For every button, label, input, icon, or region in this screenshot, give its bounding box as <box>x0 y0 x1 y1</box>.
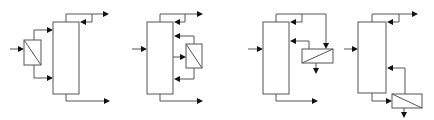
arrow-icon <box>80 19 86 25</box>
bottoms-draw-line <box>372 93 388 101</box>
arrow-icon <box>180 54 186 60</box>
arrow-icon <box>141 46 147 52</box>
return-line <box>294 41 309 49</box>
arrow-icon <box>103 11 109 17</box>
vapor-feed-line <box>34 30 49 40</box>
vapor-return-line <box>391 68 405 94</box>
column <box>358 22 386 93</box>
liquid-feed-line <box>34 65 49 78</box>
bottoms-line <box>66 94 104 101</box>
arrow-icon <box>387 65 393 71</box>
arrow-icon <box>387 19 393 25</box>
arrow-icon <box>323 43 329 49</box>
arrow-icon <box>386 98 392 104</box>
process-diagram <box>0 0 434 120</box>
arrow-icon <box>174 76 180 82</box>
bottoms-line <box>276 94 312 101</box>
arrow-icon <box>197 11 203 17</box>
arrow-icon <box>312 98 318 104</box>
arrow-icon <box>174 33 180 39</box>
return-line-upper <box>178 36 194 44</box>
arrow-icon <box>313 68 319 74</box>
arrow-icon <box>47 27 53 33</box>
return-line-lower <box>178 68 194 79</box>
bottoms-line <box>160 94 197 101</box>
arrow-icon <box>197 98 203 104</box>
column <box>263 22 289 94</box>
arrow-icon <box>290 38 296 44</box>
diagram-config-3 <box>248 14 333 104</box>
diagram-config-4 <box>344 11 422 118</box>
arrow-icon <box>18 46 24 52</box>
arrow-icon <box>104 98 110 104</box>
arrow-icon <box>352 46 358 52</box>
arrow-icon <box>290 19 296 25</box>
diagram-config-1 <box>10 11 110 104</box>
arrow-icon <box>412 11 418 17</box>
diagram-config-2 <box>132 11 203 104</box>
column <box>147 22 173 94</box>
arrow-icon <box>401 112 407 118</box>
arrow-icon <box>174 19 180 25</box>
column <box>53 22 79 94</box>
arrow-icon <box>47 75 53 81</box>
arrow-icon <box>257 46 263 52</box>
